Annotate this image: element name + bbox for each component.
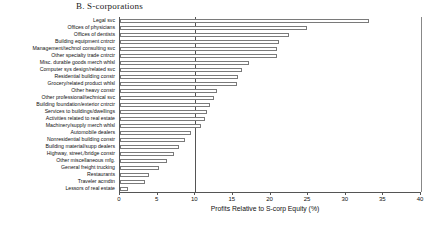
x-tick — [307, 192, 308, 195]
category-label: Services to buildings/dwellings — [45, 109, 115, 114]
bar — [120, 47, 277, 51]
x-tick-label: 20 — [266, 196, 273, 202]
category-label: Management/technol consulting svc — [33, 46, 115, 51]
bar — [120, 117, 205, 121]
bar — [120, 96, 214, 100]
bar — [120, 152, 174, 156]
category-label: Other heavy constr — [71, 88, 115, 93]
category-label: Highway, street,/bridge constr — [47, 151, 115, 156]
category-label: Building foundation/exterior cntrctr — [36, 102, 115, 107]
x-axis-label: Profits Relative to S-corp Equity (%) — [0, 205, 430, 212]
x-tick-label: 0 — [117, 196, 120, 202]
x-tick-label: 30 — [341, 196, 348, 202]
page-title: B. S-corporations — [76, 1, 143, 11]
category-label: Traveler acmdtn — [78, 179, 115, 184]
x-tick — [420, 192, 421, 195]
bar — [120, 54, 277, 58]
bar — [120, 75, 238, 79]
x-tick — [382, 192, 383, 195]
x-tick-label: 10 — [191, 196, 198, 202]
category-label: Computer sys design/related svc — [40, 67, 115, 72]
category-axis-labels: Legal svcOffices of physiciansOffices of… — [0, 17, 117, 192]
bar — [120, 131, 191, 135]
x-tick — [119, 192, 120, 195]
bar — [120, 180, 145, 184]
x-tick-label: 25 — [304, 196, 311, 202]
x-tick-label: 35 — [379, 196, 386, 202]
bar — [120, 166, 159, 170]
x-tick-label: 40 — [417, 196, 424, 202]
bar — [120, 159, 167, 163]
bar — [120, 33, 289, 37]
bar — [120, 89, 217, 93]
category-label: Building equipment cntrctr — [55, 39, 115, 44]
bar — [120, 61, 249, 65]
x-tick — [232, 192, 233, 195]
category-label: Building material/supp dealers — [46, 144, 116, 149]
chart-container: Legal svcOffices of physiciansOffices of… — [0, 17, 430, 209]
x-tick-label: 15 — [229, 196, 236, 202]
category-label: Restaurants — [87, 172, 115, 177]
bar — [120, 145, 179, 149]
bar — [120, 19, 369, 23]
x-tick — [345, 192, 346, 195]
category-label: Machinery/supply merch whlsl — [46, 123, 115, 128]
category-label: Other miscellaneous mfg. — [56, 158, 115, 163]
bar — [120, 40, 279, 44]
category-label: Grocery/related product whlsl — [48, 81, 115, 86]
category-label: Legal svc — [93, 18, 115, 23]
bar — [120, 82, 237, 86]
category-label: Nonresidential building constr — [47, 137, 115, 142]
bar — [120, 187, 128, 191]
category-label: Other professional/technical svc — [41, 95, 115, 100]
category-label: Other specialty trade cntrctr — [51, 53, 115, 58]
plot-area — [119, 17, 422, 192]
category-label: Offices of physicians — [68, 25, 115, 30]
bar — [120, 173, 149, 177]
x-tick-label: 5 — [155, 196, 158, 202]
bar — [120, 124, 201, 128]
category-label: General freight trucking — [61, 165, 115, 170]
category-label: Automobile dealers — [71, 130, 115, 135]
bar — [120, 68, 242, 72]
x-tick — [157, 192, 158, 195]
bar — [120, 26, 307, 30]
bar — [120, 103, 210, 107]
x-axis-label-text: Profits Relative to S-corp Equity (%) — [111, 205, 319, 212]
bar — [120, 110, 207, 114]
x-tick — [194, 192, 195, 195]
category-label: Lessors of real estate — [65, 186, 115, 191]
category-label: Misc. durable goods merch whlsl — [40, 60, 115, 65]
category-label: Activities related to real estate — [46, 116, 115, 121]
bar — [120, 138, 185, 142]
category-label: Offices of dentists — [74, 32, 115, 37]
category-label: Residential building constr — [54, 74, 115, 79]
x-tick — [270, 192, 271, 195]
